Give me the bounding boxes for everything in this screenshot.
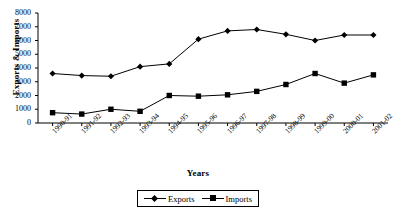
- legend-label-exports: Exports: [168, 194, 194, 204]
- data-point-diamond: [79, 72, 85, 78]
- series-line-exports: [53, 30, 374, 77]
- data-point-square: [312, 71, 317, 76]
- data-point-square: [79, 111, 84, 116]
- legend-item-exports: Exports: [144, 194, 194, 204]
- data-point-square: [254, 89, 259, 94]
- data-point-diamond: [49, 70, 55, 76]
- legend-label-imports: Imports: [226, 194, 252, 204]
- data-point-diamond: [254, 26, 260, 32]
- plot-area: [0, 0, 396, 215]
- chart-container: Exports & Imports Years 0100020003000400…: [0, 0, 396, 215]
- data-point-square: [371, 72, 376, 77]
- data-point-diamond: [341, 32, 347, 38]
- data-point-diamond: [137, 64, 143, 70]
- data-point-square: [342, 80, 347, 85]
- data-point-diamond: [224, 28, 230, 34]
- series-line-imports: [53, 74, 374, 115]
- data-point-square: [137, 109, 142, 114]
- chart-legend: Exports Imports: [137, 190, 259, 207]
- data-point-square: [167, 93, 172, 98]
- data-point-diamond: [370, 32, 376, 38]
- axis-lines: [38, 13, 388, 123]
- square-marker-icon: [210, 195, 216, 201]
- data-point-square: [50, 110, 55, 115]
- legend-line-exports: [144, 194, 166, 203]
- data-point-square: [225, 92, 230, 97]
- data-point-square: [283, 82, 288, 87]
- legend-line-imports: [202, 194, 224, 203]
- legend-item-imports: Imports: [202, 194, 252, 204]
- data-point-diamond: [312, 37, 318, 43]
- diamond-marker-icon: [151, 195, 158, 202]
- data-series-layer: [49, 26, 376, 116]
- data-point-square: [108, 107, 113, 112]
- data-point-square: [196, 93, 201, 98]
- axis-tick-marks: [35, 13, 373, 126]
- data-point-diamond: [283, 31, 289, 37]
- data-point-diamond: [108, 73, 114, 79]
